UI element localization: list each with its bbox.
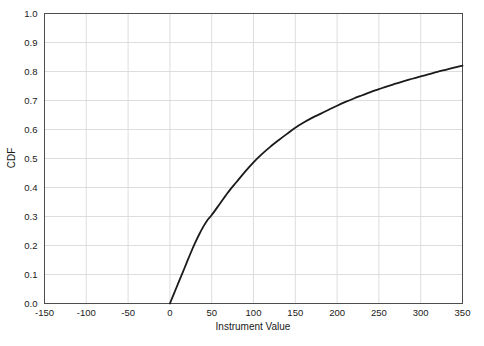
y-tick-label: 0.4 — [24, 182, 37, 193]
chart-figure: -150-100-50050100150200250300350 0.00.10… — [0, 0, 484, 346]
y-tick-label: 0.2 — [24, 240, 37, 251]
x-axis-title: Instrument Value — [216, 321, 291, 332]
y-tick-label: 1.0 — [24, 8, 37, 19]
chart-background — [0, 0, 484, 346]
x-tick-label: -100 — [77, 307, 96, 318]
y-tick-label: 0.8 — [24, 66, 37, 77]
x-tick-label: -50 — [121, 307, 135, 318]
x-tick-label: 350 — [455, 307, 471, 318]
y-tick-label: 0.1 — [24, 269, 37, 280]
x-tick-label: 150 — [287, 307, 303, 318]
y-tick-label: 0.9 — [24, 37, 37, 48]
y-tick-label: 0.6 — [24, 124, 37, 135]
x-tick-label: 50 — [206, 307, 217, 318]
x-tick-label: 0 — [167, 307, 172, 318]
x-tick-label: 300 — [413, 307, 429, 318]
x-tick-label: 200 — [329, 307, 345, 318]
y-tick-label: 0.0 — [24, 298, 37, 309]
cdf-chart: -150-100-50050100150200250300350 0.00.10… — [0, 0, 484, 346]
y-tick-label: 0.7 — [24, 95, 37, 106]
y-tick-label: 0.5 — [24, 153, 37, 164]
x-tick-label: -150 — [35, 307, 54, 318]
y-axis-title: CDF — [6, 148, 17, 169]
y-tick-label: 0.3 — [24, 211, 37, 222]
x-tick-label: 100 — [246, 307, 262, 318]
x-tick-label: 250 — [371, 307, 387, 318]
